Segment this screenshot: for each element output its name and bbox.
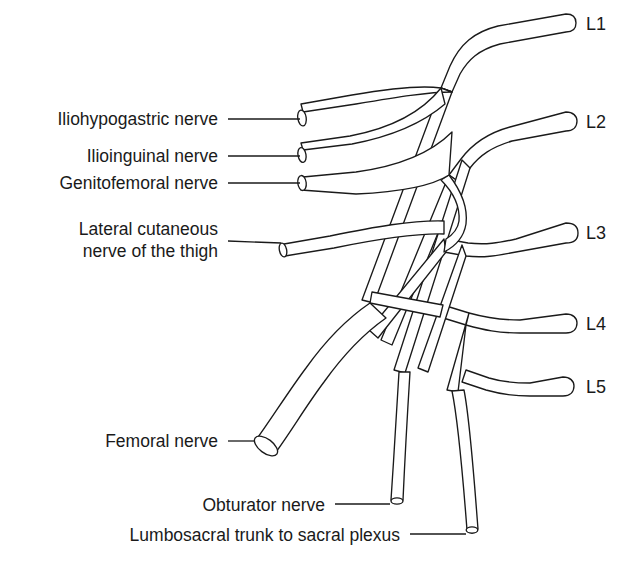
label-lateral-cutaneous-line2: nerve of the thigh [79, 240, 218, 262]
obturator-cut-end [391, 498, 403, 504]
label-root-l1: L1 [586, 13, 606, 36]
plexus-diagram [0, 0, 632, 570]
label-ilioinguinal-nerve: Ilioinguinal nerve [87, 145, 218, 167]
lumbar-plexus-figure: Iliohypogastric nerve Ilioinguinal nerve… [0, 0, 632, 570]
lumbosacral-cut-end [466, 527, 478, 533]
root-l5-nerve [462, 370, 574, 396]
lumbosacral-trunk [452, 390, 478, 530]
obturator-nerve [391, 372, 410, 500]
label-root-l2: L2 [586, 111, 606, 134]
root-l4-nerve [440, 305, 577, 333]
label-lumbosacral-trunk: Lumbosacral trunk to sacral plexus [130, 524, 400, 546]
label-root-l4: L4 [586, 313, 606, 336]
root-l1-nerve [441, 14, 576, 92]
label-root-l3: L3 [586, 222, 606, 245]
leader-lateral-cutaneous [228, 241, 281, 243]
label-femoral-nerve: Femoral nerve [105, 430, 218, 452]
label-root-l5: L5 [586, 376, 606, 399]
label-obturator-nerve: Obturator nerve [202, 494, 325, 516]
label-iliohypogastric-nerve: Iliohypogastric nerve [58, 108, 219, 130]
label-lateral-cutaneous-line1: Lateral cutaneous [79, 218, 218, 240]
label-genitofemoral-nerve: Genitofemoral nerve [59, 172, 218, 194]
label-lateral-cutaneous-nerve: Lateral cutaneous nerve of the thigh [79, 218, 218, 263]
femoral-nerve [256, 303, 386, 452]
